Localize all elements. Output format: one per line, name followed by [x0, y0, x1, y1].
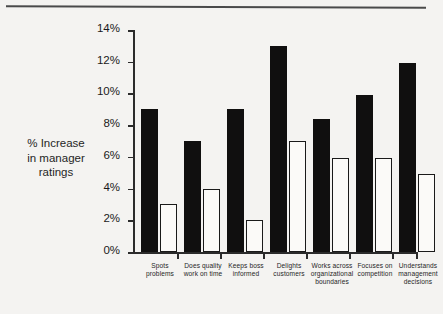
bar-white-series [418, 174, 435, 252]
x-axis-line [133, 252, 418, 254]
x-axis-category-label: Understandsmanagementdecisions [392, 262, 443, 287]
bar-white-series [375, 158, 392, 252]
bar-black-series [141, 109, 158, 252]
bar-white-series [203, 189, 220, 252]
y-axis-tick-label: 8% [80, 117, 120, 129]
y-axis-tick: 6% [128, 157, 135, 159]
x-axis-category-label-line: boundaries [306, 278, 358, 286]
y-axis-tick-label: 14% [80, 22, 120, 34]
x-axis-tick [349, 252, 351, 259]
y-axis-tick-label: 6% [80, 149, 120, 161]
y-axis-tick: 4% [128, 189, 135, 191]
bar-group [270, 30, 308, 252]
bar-group [399, 30, 437, 252]
x-axis-tick [220, 252, 222, 259]
y-axis-tick-label: 12% [80, 54, 120, 66]
bar-group [184, 30, 222, 252]
bar-group [141, 30, 179, 252]
bar-black-series [399, 63, 416, 252]
x-axis-tick [392, 252, 394, 259]
y-axis-tick-label: 0% [80, 244, 120, 256]
x-axis-category-label-line: Understands [392, 262, 443, 270]
bar-group [313, 30, 351, 252]
y-axis-tick: 0% [128, 252, 135, 254]
y-axis-tick-label: 4% [80, 181, 120, 193]
bar-black-series [356, 95, 373, 252]
bar-group [356, 30, 394, 252]
y-axis-tick: 14% [128, 30, 135, 32]
y-axis-tick-label: 2% [80, 212, 120, 224]
y-axis-tick-label: 10% [80, 85, 120, 97]
y-axis-tick: 8% [128, 125, 135, 127]
bar-black-series [270, 46, 287, 252]
bar-white-series [289, 141, 306, 252]
bar-white-series [160, 204, 177, 252]
y-axis-title-line-3: ratings [8, 165, 104, 180]
bar-white-series [246, 220, 263, 252]
x-axis-tick [177, 252, 179, 259]
bar-black-series [227, 109, 244, 252]
x-axis-category-label-line: decisions [392, 278, 443, 286]
y-axis-tick: 12% [128, 62, 135, 64]
bar-group [227, 30, 265, 252]
y-axis-tick: 2% [128, 220, 135, 222]
bar-black-series [313, 119, 330, 252]
bar-white-series [332, 158, 349, 252]
x-axis-category-label-line: management [392, 270, 443, 278]
plot-area: 14%12%10%8%6%4%2%0% [133, 30, 418, 254]
y-axis-tick: 10% [128, 93, 135, 95]
x-axis-tick [263, 252, 265, 259]
bar-black-series [184, 141, 201, 252]
x-axis-tick [306, 252, 308, 259]
x-axis-tick [416, 252, 418, 259]
